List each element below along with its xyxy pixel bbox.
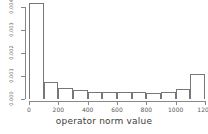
histogram-bar (102, 92, 117, 99)
y-axis-tick (21, 76, 25, 77)
histogram-bar (58, 88, 73, 99)
histogram-bar (161, 92, 176, 99)
plot-area (29, 4, 205, 99)
x-axis-tick (58, 101, 59, 105)
x-axis-tick-label: 1200 (190, 106, 208, 113)
histogram-bar (190, 74, 205, 99)
x-axis-tick-label: 1000 (161, 106, 191, 113)
x-axis-tick-label: 800 (131, 106, 161, 113)
x-axis-tick (117, 101, 118, 105)
y-axis-tick (21, 7, 25, 8)
x-axis-tick (29, 101, 30, 105)
histogram-bar (44, 82, 59, 99)
x-axis-tick-label: 400 (73, 106, 103, 113)
x-axis-tick (88, 101, 89, 105)
y-axis-tick-label: 0.004 (9, 0, 14, 18)
y-axis-tick-label: 0.001 (9, 65, 14, 87)
y-axis-tick (21, 53, 25, 54)
y-axis-tick-label: 0.000 (9, 88, 14, 110)
histogram-bar (132, 92, 147, 99)
histogram-bar (146, 93, 161, 99)
x-axis-tick-label: 200 (43, 106, 73, 113)
histogram-bar (176, 89, 191, 99)
y-axis-line (25, 7, 26, 99)
y-axis-tick (21, 99, 25, 100)
x-axis-tick-label: 0 (14, 106, 44, 113)
x-axis-title: operator norm value (0, 116, 208, 127)
histogram-bar (88, 92, 103, 99)
histogram-bar (117, 92, 132, 99)
x-axis-tick (146, 101, 147, 105)
histogram-bar (29, 3, 44, 99)
y-axis-tick (21, 30, 25, 31)
y-axis-tick-label: 0.003 (9, 19, 14, 41)
x-axis-tick (176, 101, 177, 105)
x-axis-tick (205, 101, 206, 105)
histogram-bar (73, 90, 88, 99)
histogram-figure: 0.0000.0010.0020.0030.004 02004006008001… (0, 0, 208, 134)
y-axis-tick-label: 0.002 (9, 42, 14, 64)
x-axis-tick-label: 600 (102, 106, 132, 113)
